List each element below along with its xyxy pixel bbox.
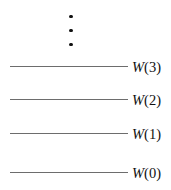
level-label-w0: W(0) [132, 163, 161, 183]
weight-filtration-figure: W(3) W(2) W(1) W(0) [0, 0, 171, 190]
level-label-w3: W(3) [132, 57, 161, 77]
vertical-ellipsis-icon [0, 0, 171, 56]
level-symbol: W [132, 59, 144, 75]
level-symbol: W [132, 165, 144, 181]
level-close-paren: ) [156, 126, 161, 142]
level-symbol: W [132, 92, 144, 108]
level-line [10, 172, 128, 173]
level-close-paren: ) [156, 165, 161, 181]
level-row-w3: W(3) [0, 57, 171, 77]
level-row-w2: W(2) [0, 90, 171, 110]
level-row-w0: W(0) [0, 163, 171, 183]
ellipsis-dot [69, 29, 72, 32]
level-close-paren: ) [156, 59, 161, 75]
level-label-w1: W(1) [132, 124, 161, 144]
ellipsis-dot [69, 43, 72, 46]
level-line [10, 66, 128, 67]
level-symbol: W [132, 126, 144, 142]
level-label-w2: W(2) [132, 90, 161, 110]
level-close-paren: ) [156, 92, 161, 108]
level-row-w1: W(1) [0, 124, 171, 144]
ellipsis-dot [69, 15, 72, 18]
level-line [10, 133, 128, 134]
level-line [10, 99, 128, 100]
